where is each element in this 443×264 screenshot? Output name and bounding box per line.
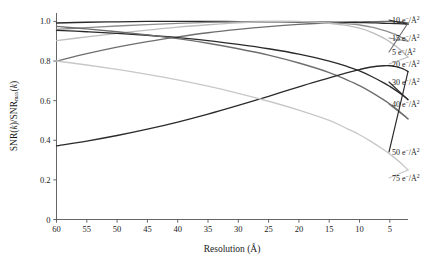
legend-unit-exponent: 2: [417, 15, 420, 21]
x-tick-label: 30: [234, 224, 243, 234]
x-tick-label: 35: [204, 224, 213, 234]
y-tick-label: 0.4: [40, 135, 51, 145]
x-axis-title: Resolution (Å): [204, 243, 261, 255]
legend-dose-number: 15 e: [392, 34, 406, 43]
x-tick-label: 45: [143, 224, 152, 234]
legend-dose-number: 5 e: [392, 48, 402, 57]
y-axis-title: SNR(k)/SNRmax(k): [9, 81, 20, 151]
y-axis-title-close: ): [9, 81, 20, 84]
y-tick-label: 0.8: [40, 56, 51, 66]
legend-unit-angstrom: /Å: [409, 100, 417, 109]
legend-unit-angstrom: /Å: [409, 60, 417, 69]
y-axis-title-sub: max: [13, 91, 19, 101]
y-tick-label: 0: [46, 215, 50, 225]
x-tick-label: 20: [295, 224, 304, 234]
svg-text:SNR(k)/SNRmax(k): SNR(k)/SNRmax(k): [9, 81, 20, 151]
legend-dose-number: 30 e: [392, 78, 406, 87]
snr-resolution-chart: 00.20.40.60.81.0 60555045403530252015105…: [0, 0, 443, 264]
y-axis-title-pre: SNR(: [9, 130, 20, 152]
x-tick-label: 60: [52, 224, 61, 234]
legend-unit-exponent: 2: [417, 33, 420, 39]
legend-unit-exponent: 2: [417, 173, 420, 179]
legend-unit-exponent: 2: [413, 47, 416, 53]
y-axis-title-mid: )/SNR: [9, 100, 20, 125]
legend-unit-angstrom: /Å: [405, 48, 413, 57]
x-tick-label: 25: [264, 224, 273, 234]
legend-unit-angstrom: /Å: [409, 148, 417, 157]
legend-unit-angstrom: /Å: [409, 34, 417, 43]
legend-unit-angstrom: /Å: [409, 16, 417, 25]
legend-unit-exponent: 2: [417, 99, 420, 105]
legend-dose-number: 10 e: [392, 16, 406, 25]
legend-unit-exponent: 2: [417, 77, 420, 83]
x-tick-label: 50: [113, 224, 122, 234]
legend-unit-exponent: 2: [417, 147, 420, 153]
x-tick-label: 10: [355, 224, 364, 234]
y-tick-label: 1.0: [40, 16, 51, 26]
legend-unit-angstrom: /Å: [409, 174, 417, 183]
legend-unit-exponent: 2: [417, 59, 420, 65]
x-tick-label: 55: [83, 224, 92, 234]
x-tick-label: 15: [325, 224, 334, 234]
x-tick-label: 5: [388, 224, 392, 234]
y-tick-label: 0.2: [40, 175, 51, 185]
legend-dose-number: 20 e: [392, 60, 406, 69]
legend-dose-number: 75 e: [392, 174, 406, 183]
legend-unit-angstrom: /Å: [409, 78, 417, 87]
x-tick-label: 40: [173, 224, 182, 234]
y-tick-label: 0.6: [40, 96, 51, 106]
legend-dose-number: 40 e: [392, 100, 406, 109]
legend-label-5: 5 e−/Å2: [392, 47, 416, 57]
legend-dose-number: 50 e: [392, 148, 406, 157]
